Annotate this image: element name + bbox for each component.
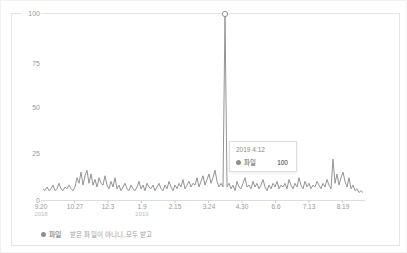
- x-tick-2: 12.3: [94, 203, 122, 210]
- x-year-2018: 2018: [27, 211, 55, 217]
- y-tick-100: 100: [21, 10, 41, 17]
- x-tick-9: 8.19: [329, 203, 357, 210]
- line-chart-plot[interactable]: [1, 1, 407, 253]
- y-tick-25: 25: [21, 150, 41, 157]
- x-tick-0: 9.20: [27, 203, 55, 210]
- series-dot-icon: [236, 160, 241, 165]
- x-tick-7: 6.6: [262, 203, 290, 210]
- legend-keyword: 파일: [49, 229, 61, 239]
- series-line: [43, 14, 363, 193]
- y-tick-75: 75: [21, 60, 41, 67]
- tooltip-series-name: 파일: [244, 157, 256, 167]
- trend-chart-widget: 100 75 50 25 0 9.20 2018 10.27 12.3 1.9 …: [0, 0, 407, 253]
- legend-dot-icon: [41, 232, 46, 237]
- tooltip-value: 100: [277, 159, 290, 166]
- x-tick-4: 2.15: [161, 203, 189, 210]
- x-tick-8: 7.13: [295, 203, 323, 210]
- x-tick-5: 3.24: [195, 203, 223, 210]
- hover-tooltip: 2019 4.12 파일 100: [229, 141, 297, 172]
- x-tick-1: 10.27: [61, 203, 89, 210]
- legend-terms: 받은 파일이 아니니,모두 받고: [70, 229, 152, 239]
- tooltip-date: 2019 4.12: [236, 146, 290, 154]
- x-year-2019: 2019: [128, 211, 156, 217]
- x-tick-3: 1.9: [128, 203, 156, 210]
- x-tick-6: 4.30: [228, 203, 256, 210]
- peak-marker-icon[interactable]: [222, 11, 227, 16]
- y-tick-50: 50: [21, 104, 41, 111]
- legend[interactable]: 파일 받은 파일이 아니니,모두 받고: [41, 229, 152, 239]
